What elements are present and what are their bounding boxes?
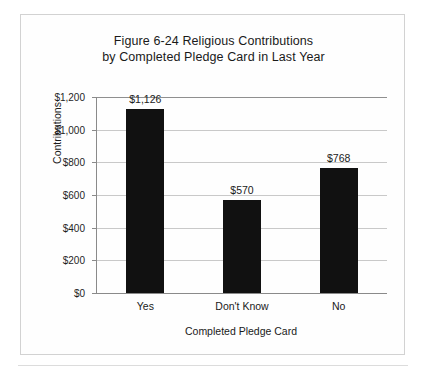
bar	[223, 200, 261, 293]
y-axis-tick-mark	[92, 195, 97, 196]
y-axis-tick-label: $1,200	[25, 92, 85, 103]
chart-title-line-2: by Completed Pledge Card in Last Year	[21, 49, 406, 65]
bar	[126, 109, 164, 293]
y-axis-tick-label: $1,000	[25, 124, 85, 135]
y-axis-tick-label: $600	[25, 190, 85, 201]
y-axis-tick-mark	[92, 293, 97, 294]
plot-area: $0$200$400$600$800$1,000$1,200 $1,126$57…	[96, 97, 387, 294]
y-axis-tick-label: $400	[25, 222, 85, 233]
y-axis-tick-mark	[92, 162, 97, 163]
x-axis-category-label: No	[284, 300, 394, 312]
x-axis-category-label: Yes	[90, 300, 200, 312]
y-axis-tick-mark	[92, 228, 97, 229]
y-axis-tick-label: $0	[25, 288, 85, 299]
figure-frame: Figure 6-24 Religious Contributions by C…	[20, 14, 405, 355]
bar	[320, 168, 358, 293]
bar-value-label: $570	[202, 184, 282, 196]
y-axis-tick-label: $200	[25, 255, 85, 266]
chart-title-line-1: Figure 6-24 Religious Contributions	[21, 33, 406, 49]
x-axis-category-label: Don't Know	[187, 300, 297, 312]
chart-title: Figure 6-24 Religious Contributions by C…	[21, 33, 406, 65]
page-divider-rule	[18, 365, 408, 366]
y-axis-tick-mark	[92, 260, 97, 261]
y-axis-tick-mark	[92, 130, 97, 131]
y-axis-tick-label: $800	[25, 157, 85, 168]
x-axis-title: Completed Pledge Card	[96, 325, 386, 337]
bar-value-label: $768	[299, 152, 379, 164]
bar-value-label: $1,126	[105, 93, 185, 105]
y-axis-tick-mark	[92, 97, 97, 98]
